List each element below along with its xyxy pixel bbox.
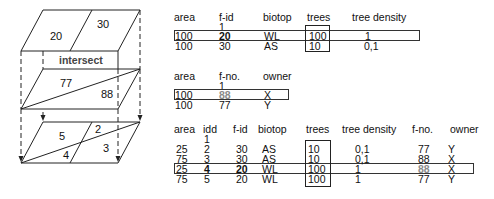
overlay-diagram: 20 30 intersect 77 88 5 2 4 3: [0, 0, 160, 199]
middle-layer-divider: [21, 69, 140, 109]
header-area: area: [174, 12, 195, 22]
middle-label-77: 77: [60, 77, 72, 89]
header-f-no: f-no.: [412, 124, 433, 134]
table-row-3-tree-density: 1: [355, 174, 361, 184]
table-row-3-biotop: WL: [262, 174, 278, 184]
table-row-3-idd: 5: [204, 174, 210, 184]
arrow-down-icon: [138, 115, 143, 121]
top-label-30: 30: [97, 18, 109, 30]
table-row-1-area: 100: [175, 41, 193, 51]
table-row-3-area: 75: [176, 174, 188, 184]
table-row-1-biotop: AS: [264, 41, 278, 51]
table-row-1-trees: 10: [309, 41, 321, 51]
top-label-20: 20: [50, 30, 62, 42]
header-trees: trees: [306, 124, 329, 134]
table-row-3-owner: Y: [448, 174, 455, 184]
result-label-3: 3: [103, 142, 109, 154]
header-area: area: [174, 71, 195, 81]
table-row-1-area: 100: [175, 100, 193, 110]
highlighted-row: [174, 30, 420, 41]
table-row-3-f-id: 20: [236, 174, 248, 184]
table-row-1-f-id: 30: [219, 41, 231, 51]
result-label-5: 5: [59, 130, 65, 142]
header-area: area: [174, 124, 195, 134]
top-layer-divider: [70, 10, 92, 51]
middle-label-88: 88: [101, 88, 113, 100]
result-label-4: 4: [63, 149, 69, 161]
header-biotop: biotop: [258, 124, 287, 134]
header-f-id: f-id: [233, 124, 248, 134]
table-row-1-f-no: 77: [219, 100, 231, 110]
operation-label: intersect: [59, 54, 103, 66]
header-owner: owner: [263, 71, 292, 81]
result-label-2: 2: [95, 123, 101, 135]
result-layer-diagonal: [21, 122, 140, 163]
header-tree-density: tree density: [342, 124, 396, 134]
table-row-1-tree-density: 0,1: [364, 41, 379, 51]
arrow-down-icon: [41, 115, 46, 121]
table-row-3-trees: 100: [308, 174, 326, 184]
table-row-1-owner: Y: [264, 100, 271, 110]
header-tree-density: tree density: [352, 12, 406, 22]
header-owner: owner: [450, 124, 479, 134]
header-biotop: biotop: [263, 12, 292, 22]
table-row-3-f-no: 77: [418, 174, 430, 184]
header-trees: trees: [307, 12, 330, 22]
